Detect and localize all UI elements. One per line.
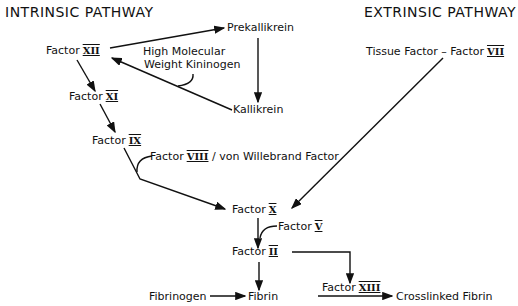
factor-x-numeral: X bbox=[269, 204, 277, 215]
factor-v-node: FactorV bbox=[278, 220, 322, 233]
prekallikrein-node: Prekallikrein bbox=[227, 21, 294, 34]
factor-xiii-numeral: XIII bbox=[359, 282, 381, 293]
extrinsic-pathway-title: EXTRINSIC PATHWAY bbox=[364, 4, 516, 20]
factor-x-label: Factor bbox=[232, 203, 266, 216]
factor-xi-label: Factor bbox=[69, 90, 103, 103]
hmwk-line2: Weight Kininogen bbox=[144, 58, 241, 71]
factor-ix-label: Factor bbox=[92, 134, 126, 147]
factor-viii-numeral: VIII bbox=[187, 151, 209, 162]
kallikrein-node: Kallikrein bbox=[233, 103, 283, 116]
factor-v-numeral: V bbox=[315, 221, 323, 232]
fibrin-node: Fibrin bbox=[248, 290, 278, 303]
intrinsic-pathway-title: INTRINSIC PATHWAY bbox=[5, 4, 153, 20]
factor-ix-node: FactorIX bbox=[92, 134, 141, 147]
factor-ii-node: FactorII bbox=[232, 245, 278, 258]
hmwk-line1: High Molecular bbox=[143, 45, 225, 58]
factor-ii-label: Factor bbox=[232, 245, 266, 258]
factor-xii-node: FactorXII bbox=[46, 44, 100, 57]
factor-xi-numeral: XI bbox=[106, 91, 118, 102]
factor-v-label: Factor bbox=[278, 220, 312, 233]
factor-xiii-node: FactorXIII bbox=[322, 281, 380, 294]
factor-viii-node: FactorVIII / von Willebrand Factor bbox=[150, 150, 339, 163]
fibrinogen-node: Fibrinogen bbox=[149, 290, 207, 303]
tissue-factor-label: Tissue Factor – Factor bbox=[366, 45, 484, 58]
factor-xi-node: FactorXI bbox=[69, 90, 118, 103]
factor-viii-suffix: / von Willebrand Factor bbox=[212, 150, 339, 163]
factor-xii-numeral: XII bbox=[83, 45, 100, 56]
factor-ix-numeral: IX bbox=[129, 135, 141, 146]
factor-xii-label: Factor bbox=[46, 44, 80, 57]
tissue-factor-node: Tissue Factor – FactorVII bbox=[366, 45, 504, 58]
factor-xiii-label: Factor bbox=[322, 281, 356, 294]
factor-viii-label: Factor bbox=[150, 150, 184, 163]
factor-x-node: FactorX bbox=[232, 203, 276, 216]
tissue-factor-numeral: VII bbox=[487, 46, 504, 57]
factor-ii-numeral: II bbox=[269, 246, 278, 257]
crosslinked-fibrin-node: Crosslinked Fibrin bbox=[396, 290, 493, 303]
